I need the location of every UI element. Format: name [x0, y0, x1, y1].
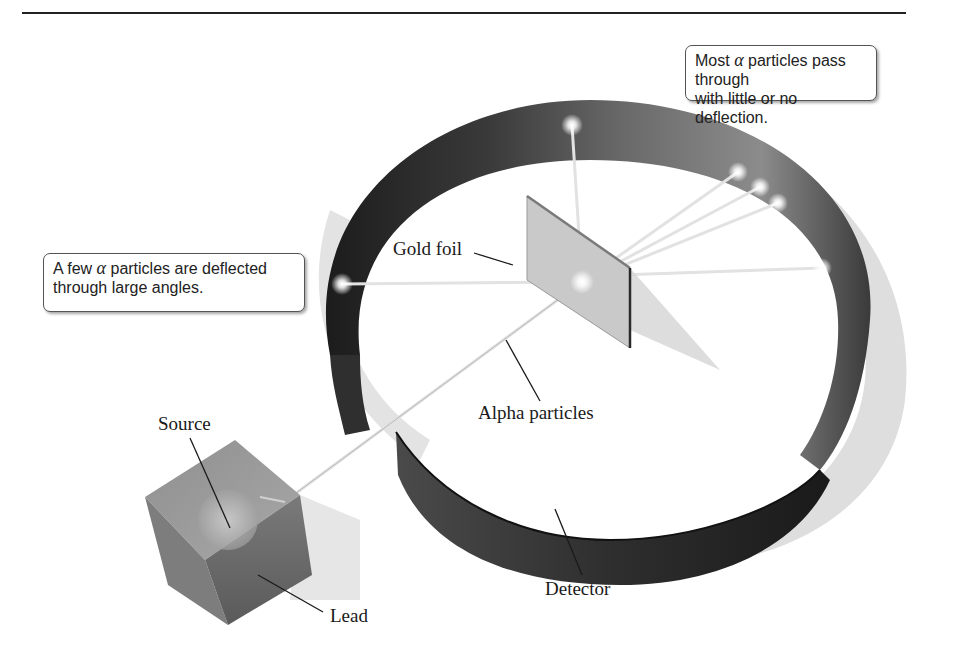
label-alpha-particles: Alpha particles — [478, 402, 594, 424]
beam-4 — [620, 268, 822, 275]
alpha-symbol: α — [734, 50, 743, 70]
lead-source-cube — [145, 440, 360, 625]
callout-most-line1: Most α particles pass through — [695, 51, 867, 89]
detector-ring — [326, 100, 871, 585]
label-detector: Detector — [545, 578, 610, 600]
label-lead: Lead — [330, 605, 368, 627]
callout-few-line1: A few α particles are deflected — [53, 259, 295, 278]
alpha-symbol: α — [97, 258, 106, 278]
callout-most-line2: with little or no deflection. — [695, 89, 867, 127]
label-gold-foil: Gold foil — [393, 238, 462, 260]
callout-most-particles: Most α particles pass through with littl… — [685, 45, 877, 101]
callout-few-particles: A few α particles are deflected through … — [43, 253, 305, 312]
label-source: Source — [158, 413, 211, 435]
callout-few-line2: through large angles. — [53, 278, 295, 297]
